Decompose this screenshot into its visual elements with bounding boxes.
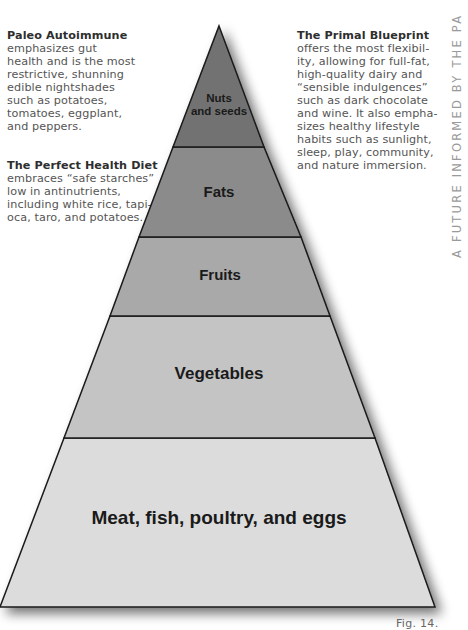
- tier-label-fruits: Fruits: [199, 266, 241, 283]
- tier-label-fats: Fats: [204, 183, 235, 200]
- tier-label-nuts-and-seeds: Nuts and seeds: [191, 92, 247, 118]
- tier-label-vegetables: Vegetables: [175, 364, 264, 384]
- tier-label-line: Nuts: [191, 92, 247, 105]
- tier-nuts-and-seeds: [173, 26, 264, 147]
- tier-label-meat-fish-poultry-eggs: Meat, fish, poultry, and eggs: [91, 507, 346, 529]
- figure-caption: Fig. 14.: [396, 617, 438, 630]
- tier-label-line: and seeds: [191, 105, 247, 118]
